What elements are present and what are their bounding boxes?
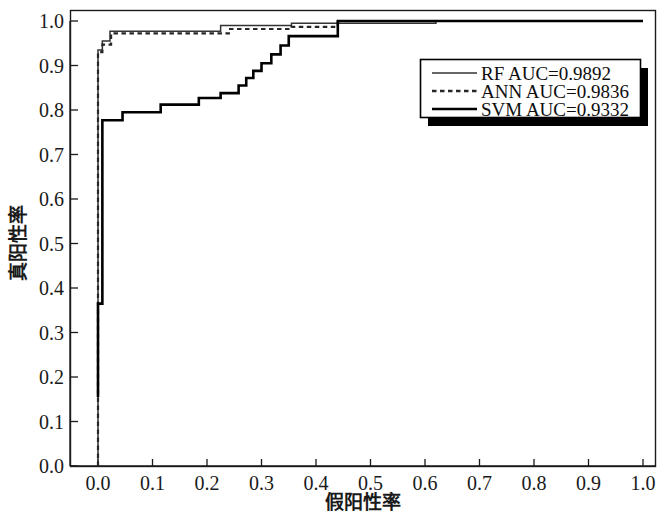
x-axis-title: 假阳性率 <box>325 491 401 513</box>
y-tick-label: 0.3 <box>39 322 64 344</box>
legend: RF AUC=0.9892 ANN AUC=0.9836 SVM AUC=0.9… <box>421 60 649 127</box>
x-tick-label: 0.1 <box>140 472 165 494</box>
y-tick-label: 0.9 <box>39 55 64 77</box>
x-tick-label: 0.7 <box>467 472 492 494</box>
y-tick-label: 0.7 <box>39 144 64 166</box>
y-tick-label: 0.2 <box>39 366 64 388</box>
legend-item-svm-label: SVM AUC=0.9332 <box>481 99 629 120</box>
x-tick-label: 0.3 <box>249 472 274 494</box>
chart-canvas: 0.00.10.20.30.40.50.60.70.80.91.0 0.00.1… <box>0 0 668 517</box>
x-tick-label: 0.6 <box>413 472 438 494</box>
y-tick-label: 1.0 <box>39 10 64 32</box>
y-tick-label: 0.5 <box>39 233 64 255</box>
y-tick-label: 0.1 <box>39 411 64 433</box>
y-tick-label: 0.6 <box>39 188 64 210</box>
x-tick-label: 0.2 <box>195 472 220 494</box>
x-tick-label: 1.0 <box>631 472 656 494</box>
y-tick-label: 0.8 <box>39 99 64 121</box>
x-tick-label: 0.9 <box>576 472 601 494</box>
x-tick-label: 0.0 <box>86 472 111 494</box>
y-axis-title: 真阳性率 <box>7 205 29 281</box>
y-tick-label: 0.0 <box>39 455 64 477</box>
y-tick-label: 0.4 <box>39 277 64 299</box>
x-tick-label: 0.8 <box>522 472 547 494</box>
roc-chart: 0.00.10.20.30.40.50.60.70.80.91.0 0.00.1… <box>0 0 668 517</box>
